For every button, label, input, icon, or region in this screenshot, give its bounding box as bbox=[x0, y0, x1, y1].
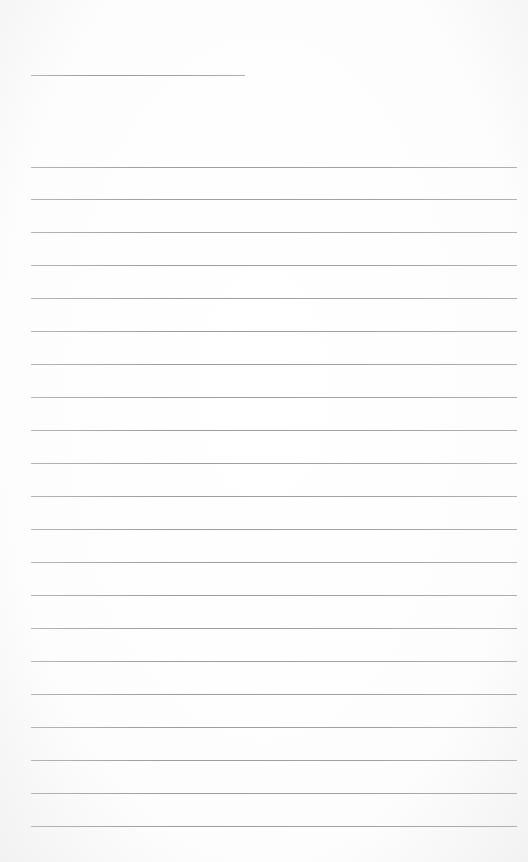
header-name-line bbox=[31, 75, 245, 76]
ruled-line bbox=[31, 199, 517, 200]
ruled-line bbox=[31, 694, 517, 695]
ruled-line bbox=[31, 628, 517, 629]
lined-paper-page bbox=[0, 0, 528, 862]
ruled-line bbox=[31, 167, 517, 168]
ruled-line bbox=[31, 298, 517, 299]
ruled-line bbox=[31, 364, 517, 365]
ruled-line bbox=[31, 760, 517, 761]
ruled-line bbox=[31, 430, 517, 431]
ruled-line bbox=[31, 265, 517, 266]
ruled-line bbox=[31, 496, 517, 497]
ruled-line bbox=[31, 331, 517, 332]
ruled-line bbox=[31, 793, 517, 794]
ruled-line bbox=[31, 826, 517, 827]
ruled-line bbox=[31, 562, 517, 563]
ruled-line bbox=[31, 397, 517, 398]
ruled-line bbox=[31, 232, 517, 233]
ruled-line bbox=[31, 661, 517, 662]
ruled-line bbox=[31, 595, 517, 596]
ruled-line bbox=[31, 529, 517, 530]
ruled-line bbox=[31, 463, 517, 464]
ruled-line bbox=[31, 727, 517, 728]
